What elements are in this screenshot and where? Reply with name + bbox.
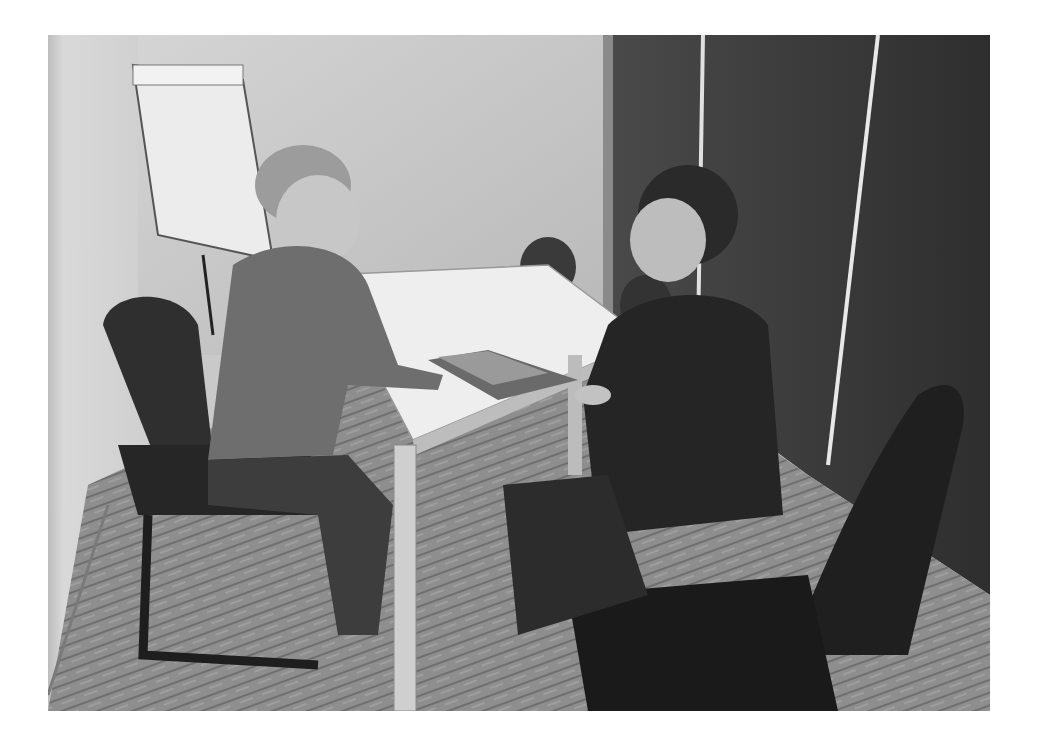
meeting-photo — [48, 35, 990, 711]
right-woman-face — [630, 198, 706, 282]
photo-illustration — [48, 35, 990, 711]
table-leg — [394, 445, 416, 711]
